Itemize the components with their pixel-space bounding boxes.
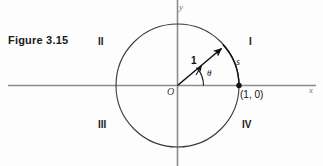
figure-container: Figure 3.15 y x O I II III IV 1 θ s (1, …	[0, 0, 323, 166]
quadrant-one-label: I	[249, 36, 252, 47]
unit-circle-diagram	[0, 0, 323, 166]
origin-label: O	[167, 86, 174, 97]
theta-angle-arc	[197, 68, 204, 86]
quadrant-two-label: II	[98, 36, 104, 47]
point-one-zero-label: (1, 0)	[240, 89, 263, 100]
y-axis-label: y	[179, 2, 183, 12]
quadrant-three-label: III	[98, 119, 106, 130]
radius-length-label: 1	[191, 55, 197, 66]
arc-length-label: s	[236, 56, 240, 67]
x-axis-label: x	[309, 85, 313, 95]
figure-caption: Figure 3.15	[8, 34, 68, 46]
theta-angle-label: θ	[207, 68, 211, 78]
quadrant-four-label: IV	[242, 119, 251, 130]
point-one-zero-marker	[236, 83, 241, 88]
radius-vector	[178, 49, 222, 86]
